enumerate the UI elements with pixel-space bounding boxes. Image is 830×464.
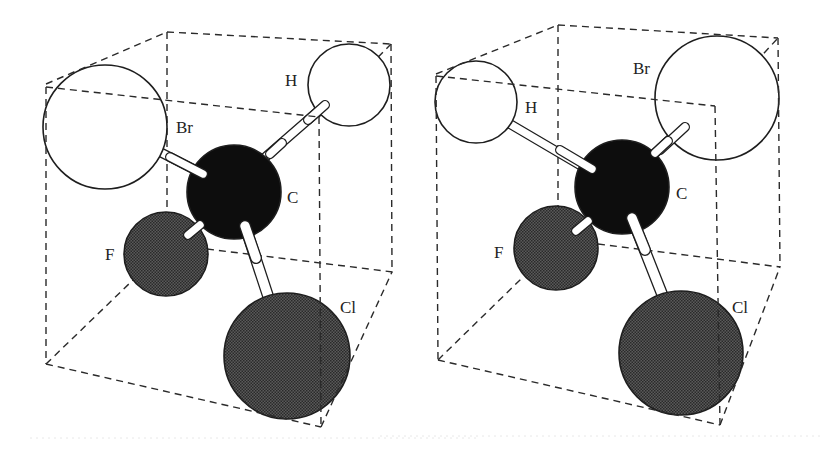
- left-label-cl: Cl: [340, 298, 356, 317]
- left-label-br: Br: [176, 118, 193, 137]
- left-molecule: H Br C F Cl: [43, 32, 393, 427]
- left-label-c: C: [287, 188, 298, 207]
- right-label-h: H: [525, 98, 537, 117]
- scan-artifact: [30, 436, 820, 438]
- right-label-c: C: [676, 184, 687, 203]
- right-atom-cl: [619, 291, 743, 415]
- left-atom-cl: [224, 293, 350, 419]
- right-label-br: Br: [633, 59, 650, 78]
- left-atom-br: [43, 65, 167, 189]
- right-molecule: Br H C F Cl: [435, 25, 780, 425]
- left-label-f: F: [105, 245, 114, 264]
- right-label-cl: Cl: [732, 298, 748, 317]
- right-label-f: F: [494, 243, 503, 262]
- left-label-h: H: [285, 71, 297, 90]
- enantiomer-diagram: H Br C F Cl: [0, 0, 830, 464]
- right-atom-h: [435, 61, 517, 143]
